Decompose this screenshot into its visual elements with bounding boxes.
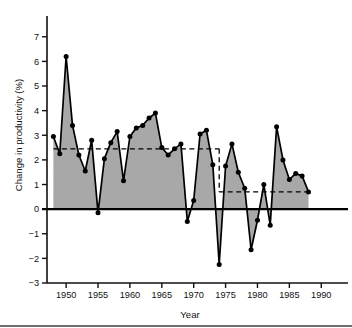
y-tick-label: −3 — [29, 278, 39, 288]
data-point — [127, 134, 132, 139]
data-point — [178, 141, 183, 146]
data-point — [249, 247, 254, 252]
x-tick-label: 1985 — [279, 290, 299, 300]
data-point — [147, 116, 152, 121]
data-point — [242, 186, 247, 191]
data-point — [210, 162, 215, 167]
data-point — [287, 177, 292, 182]
data-point — [121, 178, 126, 183]
x-tick-label: 1975 — [215, 290, 235, 300]
data-point — [57, 151, 62, 156]
x-tick-label: 1950 — [56, 290, 76, 300]
y-tick-label: 6 — [34, 57, 39, 67]
data-point — [274, 124, 279, 129]
x-tick-label: 1960 — [120, 290, 140, 300]
y-tick-label: 2 — [34, 155, 39, 165]
data-point — [229, 141, 234, 146]
data-point — [300, 173, 305, 178]
y-tick-label: 7 — [34, 32, 39, 42]
chart-canvas: −3−2−101234567 1950195519601965197019751… — [0, 0, 352, 328]
data-point — [306, 189, 311, 194]
x-tick-label: 1990 — [311, 290, 331, 300]
data-point — [185, 219, 190, 224]
data-point — [115, 129, 120, 134]
y-tick-label: 3 — [34, 131, 39, 141]
y-tick-label: −2 — [29, 254, 39, 264]
productivity-chart: −3−2−101234567 1950195519601965197019751… — [0, 0, 352, 328]
data-point — [134, 125, 139, 130]
series-area — [53, 56, 308, 264]
data-point — [223, 164, 228, 169]
y-tick-label: 0 — [34, 204, 39, 214]
y-tick-label: 1 — [34, 180, 39, 190]
data-point — [96, 210, 101, 215]
x-tick-label: 1965 — [152, 290, 172, 300]
data-point — [217, 262, 222, 267]
y-tick-label: 4 — [34, 106, 39, 116]
data-point — [293, 171, 298, 176]
y-axis-title: Change in productivity (%) — [13, 79, 24, 192]
area-fill — [53, 56, 308, 264]
data-point — [172, 146, 177, 151]
x-tick-label: 1970 — [183, 290, 203, 300]
y-tick-label: −1 — [29, 229, 39, 239]
data-point — [108, 140, 113, 145]
x-tick-label: 1955 — [88, 290, 108, 300]
data-point — [64, 54, 69, 59]
data-point — [166, 152, 171, 157]
y-tick-label: 5 — [34, 81, 39, 91]
data-point — [102, 156, 107, 161]
data-point — [140, 123, 145, 128]
data-point — [236, 170, 241, 175]
data-point — [198, 132, 203, 137]
data-point — [191, 198, 196, 203]
data-point — [70, 123, 75, 128]
data-point — [280, 157, 285, 162]
data-point — [76, 152, 81, 157]
data-point — [261, 182, 266, 187]
data-point — [159, 145, 164, 150]
x-axis-title: Year — [180, 309, 200, 320]
data-point — [268, 223, 273, 228]
data-point — [51, 134, 56, 139]
data-point — [83, 168, 88, 173]
x-tick-label: 1980 — [247, 290, 267, 300]
data-point — [153, 111, 158, 116]
data-point — [255, 218, 260, 223]
y-axis: −3−2−101234567 — [29, 16, 47, 288]
x-axis: 195019551960196519701975198019851990 — [47, 283, 348, 300]
data-point — [204, 128, 209, 133]
data-point — [89, 138, 94, 143]
